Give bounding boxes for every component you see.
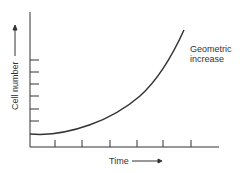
xlabel-arrow: [132, 159, 162, 163]
y-axis-label: Cell number: [10, 60, 20, 110]
growth-curve: [30, 30, 184, 135]
ylabel-arrow: [13, 25, 17, 56]
chart-canvas: [0, 0, 242, 173]
y-axis-ticks: [30, 60, 39, 121]
annotation-line-1: Geometric: [190, 44, 232, 54]
x-axis-ticks: [55, 140, 191, 147]
annotation-line-2: increase: [190, 54, 232, 64]
curve-annotation: Geometric increase: [190, 44, 232, 64]
x-axis-label: Time: [109, 156, 129, 166]
